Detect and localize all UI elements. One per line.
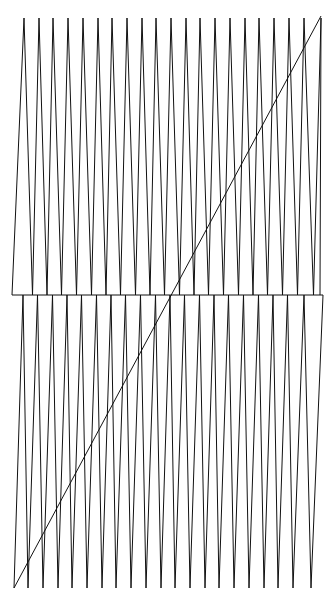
zigzag-line-drawing [0, 0, 334, 596]
top-zigzag-line [12, 18, 321, 295]
drawing-svg [0, 0, 334, 596]
diagonal-line [14, 16, 321, 588]
bottom-zigzag-line [14, 295, 323, 588]
